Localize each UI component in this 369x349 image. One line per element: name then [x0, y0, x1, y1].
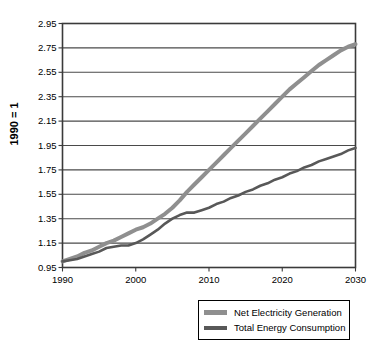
legend-swatch-icon	[204, 310, 227, 315]
y-tick-label: 1.55	[21, 189, 57, 199]
y-tick-label: 2.75	[21, 43, 57, 53]
legend-item-net-electricity-generation: Net Electricity Generation	[204, 305, 344, 320]
y-tick-label: 1.95	[21, 141, 57, 151]
series-line-net-electricity-generation	[63, 44, 356, 261]
y-tick-label: 2.15	[21, 116, 57, 126]
y-axis-label: 1990 = 1	[8, 84, 20, 164]
chart-legend: Net Electricity Generation Total Energy …	[198, 300, 350, 340]
x-tick-label: 2020	[259, 275, 305, 285]
y-tick-label: 1.75	[21, 165, 57, 175]
x-tick-label: 2010	[186, 275, 232, 285]
axis-ticks	[59, 24, 356, 272]
y-tick-label: 1.15	[21, 238, 57, 248]
y-tick-label: 2.35	[21, 92, 57, 102]
legend-swatch-icon	[204, 326, 227, 330]
x-tick-label: 1990	[40, 275, 86, 285]
data-series	[63, 44, 356, 261]
y-tick-label: 1.35	[21, 214, 57, 224]
x-tick-label: 2030	[333, 275, 369, 285]
line-chart: 1990 = 1 0.951.151.351.551.751.952.152.3…	[0, 0, 369, 349]
gridlines	[63, 24, 356, 244]
y-tick-label: 0.95	[21, 263, 57, 273]
x-tick-label: 2000	[113, 275, 159, 285]
legend-item-total-energy-consumption: Total Energy Consumption	[204, 320, 344, 335]
legend-label: Total Energy Consumption	[234, 322, 345, 333]
y-tick-label: 2.95	[21, 19, 57, 29]
y-tick-label: 2.55	[21, 67, 57, 77]
legend-label: Net Electricity Generation	[234, 307, 342, 318]
